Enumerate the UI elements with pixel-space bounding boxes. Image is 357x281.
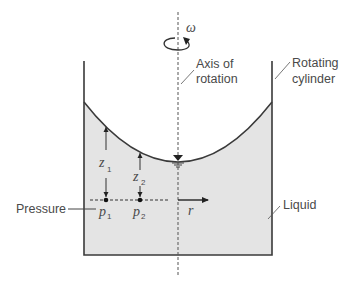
rotation-arrow-icon xyxy=(164,37,190,50)
point-p1 xyxy=(104,198,109,203)
cylinder-label-line2: cylinder xyxy=(292,72,335,86)
axis-label-line2: rotation xyxy=(196,72,238,86)
axis-label-leader xyxy=(181,70,194,84)
rotating-cylinder-diagram: ω Axis of rotation Rotating cylinder z 1… xyxy=(0,0,357,281)
liquid-label: Liquid xyxy=(283,198,316,212)
z2-label: z xyxy=(132,169,139,184)
p2-label: p xyxy=(132,204,140,219)
p1-subscript: 1 xyxy=(107,212,112,221)
p2-subscript: 2 xyxy=(141,212,146,221)
omega-label: ω xyxy=(186,20,196,35)
cylinder-label-line1: Rotating xyxy=(292,56,339,70)
z2-subscript: 2 xyxy=(141,178,146,187)
point-p2 xyxy=(138,198,143,203)
z1-subscript: 1 xyxy=(107,165,112,174)
z1-label: z xyxy=(98,155,105,170)
p1-label: p xyxy=(98,204,106,219)
axis-label-line1: Axis of xyxy=(196,57,234,71)
pressure-label: Pressure xyxy=(16,202,66,216)
r-label: r xyxy=(188,203,194,218)
cylinder-label-leader xyxy=(275,62,290,79)
